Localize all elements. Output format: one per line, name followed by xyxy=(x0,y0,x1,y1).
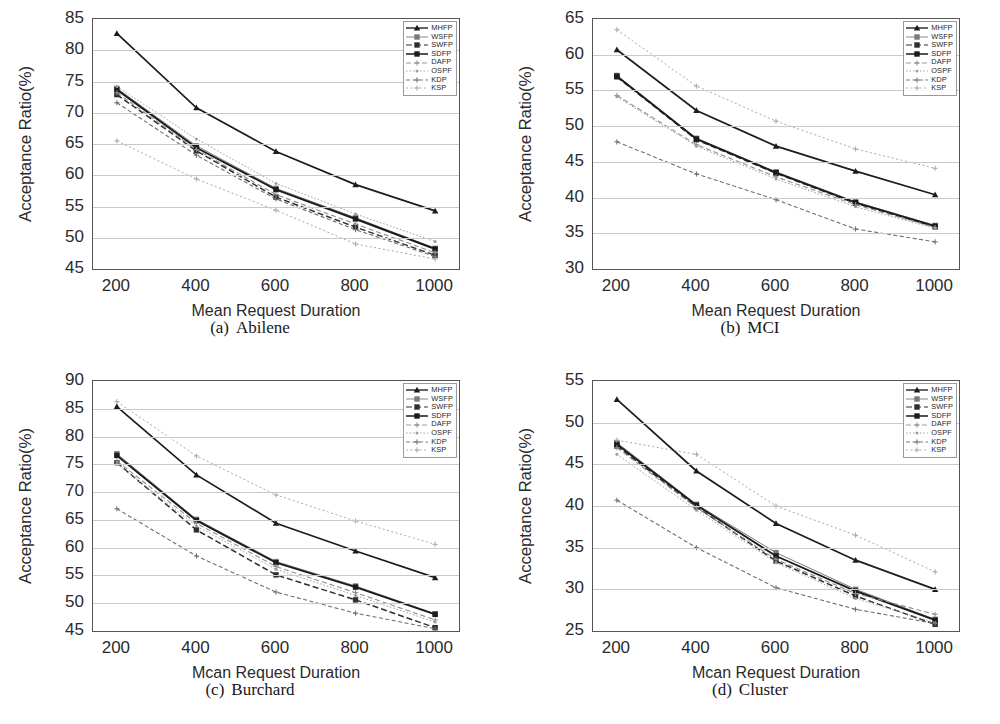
legend-item-ksp[interactable]: KSP xyxy=(406,446,453,455)
data-point-mhfp xyxy=(614,47,620,53)
y-tick-label: 25 xyxy=(565,620,584,640)
y-tick-label: 40 xyxy=(565,187,584,207)
grid-line xyxy=(593,198,959,199)
plot-frame-c: MHFPWSFPSWFPSDFPDAFPOSPFKDPKSP xyxy=(92,380,460,632)
x-tick-label: 1000 xyxy=(915,638,953,658)
data-point-ksp xyxy=(614,27,619,32)
grid-line xyxy=(593,548,959,549)
y-tick-label: 70 xyxy=(65,481,84,501)
legend-d[interactable]: MHFPWSFPSWFPSDFPDAFPOSPFKDPKSP xyxy=(903,383,957,458)
data-point-ksp xyxy=(433,542,438,547)
data-point-sdfp xyxy=(353,216,358,221)
y-tick-label: 85 xyxy=(65,8,84,28)
legend-swatch-ksp-icon xyxy=(906,84,928,92)
y-tick-label: 75 xyxy=(65,453,84,473)
y-tick-label: 30 xyxy=(565,578,584,598)
data-point-ospf xyxy=(275,182,278,185)
y-tick-label: 90 xyxy=(65,370,84,390)
plot-area-b: Acceptance Ratio(%) 3035404550556065 MHF… xyxy=(592,18,960,270)
grid-line xyxy=(593,506,959,507)
data-point-ksp xyxy=(773,119,778,124)
data-point-sdfp xyxy=(694,136,699,141)
y-tick-label: 80 xyxy=(65,426,84,446)
figure-grid: Acceptance Ratio(%) 455055606570758085 M… xyxy=(0,0,1000,724)
panel-d: Acceptance Ratio(%) 25303540455055 MHFPW… xyxy=(500,362,1000,724)
legend-swatch-dafp-icon xyxy=(406,421,428,429)
legend-label: KSP xyxy=(431,84,446,93)
legend-swatch-mhfp-icon xyxy=(406,24,428,32)
y-tick-label: 50 xyxy=(565,412,584,432)
x-tick-label: 600 xyxy=(261,638,289,658)
panel-caption-b: (b)MCI xyxy=(500,318,1000,338)
data-point-ksp xyxy=(114,399,119,404)
panel-name-d: Cluster xyxy=(739,680,788,699)
legend-item-ksp[interactable]: KSP xyxy=(406,84,453,93)
y-tick-label: 45 xyxy=(65,620,84,640)
y-tick-label: 45 xyxy=(565,151,584,171)
legend-swatch-wsfp-icon xyxy=(406,33,428,41)
plot-frame-b: MHFPWSFPSWFPSDFPDAFPOSPFKDPKSP xyxy=(592,18,960,270)
data-point-kdp xyxy=(853,226,858,231)
y-axis-label-a: Acceptance Ratio(%) xyxy=(16,34,36,254)
series-line-wsfp xyxy=(617,443,935,620)
data-point-ospf xyxy=(615,453,618,456)
legend-swatch-sdfp-icon xyxy=(406,50,428,58)
x-tick-label: 600 xyxy=(761,638,789,658)
y-tick-labels-a: 455055606570758085 xyxy=(38,18,84,270)
legend-label: KSP xyxy=(431,446,446,455)
grid-line xyxy=(93,520,459,521)
data-point-ospf xyxy=(354,213,357,216)
legend-c[interactable]: MHFPWSFPSWFPSDFPDAFPOSPFKDPKSP xyxy=(403,383,457,458)
legend-swatch-kdp-icon xyxy=(906,438,928,446)
data-point-ospf xyxy=(195,138,198,141)
y-axis-label-c: Acceptance Ratio(%) xyxy=(16,396,36,616)
data-point-ksp xyxy=(853,533,858,538)
legend-swatch-wsfp-icon xyxy=(406,395,428,403)
y-tick-label: 60 xyxy=(565,44,584,64)
y-tick-label: 50 xyxy=(65,227,84,247)
data-point-ospf xyxy=(695,509,698,512)
data-point-ospf xyxy=(854,205,857,208)
data-point-ospf xyxy=(854,597,857,600)
data-point-kdp xyxy=(694,171,699,176)
plot-area-d: Acceptance Ratio(%) 25303540455055 MHFPW… xyxy=(592,380,960,632)
grid-line xyxy=(93,238,459,239)
y-tick-labels-c: 45505560657075808590 xyxy=(38,380,84,632)
grid-line xyxy=(593,233,959,234)
y-tick-label: 75 xyxy=(65,71,84,91)
data-point-ospf xyxy=(615,95,618,98)
data-point-ksp xyxy=(273,208,278,213)
panel-name-a: Abilene xyxy=(236,318,290,337)
legend-a[interactable]: MHFPWSFPSWFPSDFPDAFPOSPFKDPKSP xyxy=(403,21,457,96)
panel-a: Acceptance Ratio(%) 455055606570758085 M… xyxy=(0,0,500,362)
grid-line xyxy=(593,589,959,590)
legend-swatch-mhfp-icon xyxy=(406,386,428,394)
data-point-sdfp xyxy=(353,584,358,589)
data-point-ksp xyxy=(933,569,938,574)
series-line-ospf xyxy=(117,87,435,242)
y-tick-label: 40 xyxy=(565,495,584,515)
legend-swatch-kdp-icon xyxy=(406,76,428,84)
data-point-mhfp xyxy=(114,30,120,36)
data-point-kdp xyxy=(933,239,938,244)
x-tick-label: 200 xyxy=(102,276,130,296)
legend-item-ksp[interactable]: KSP xyxy=(906,84,953,93)
y-tick-label: 30 xyxy=(565,258,584,278)
legend-item-ksp[interactable]: KSP xyxy=(906,446,953,455)
panel-c: Acceptance Ratio(%) 45505560657075808590… xyxy=(0,362,500,724)
grid-line xyxy=(93,492,459,493)
panel-name-b: MCI xyxy=(747,318,779,337)
plot-area-c: Acceptance Ratio(%) 45505560657075808590… xyxy=(92,380,460,632)
y-tick-label: 55 xyxy=(565,370,584,390)
data-point-mhfp xyxy=(614,396,620,402)
legend-b[interactable]: MHFPWSFPSWFPSDFPDAFPOSPFKDPKSP xyxy=(903,21,957,96)
y-axis-label-d: Acceptance Ratio(%) xyxy=(516,396,536,616)
x-tick-label: 800 xyxy=(340,276,368,296)
legend-swatch-ospf-icon xyxy=(406,67,428,75)
y-tick-label: 35 xyxy=(565,537,584,557)
y-tick-label: 55 xyxy=(65,564,84,584)
y-tick-label: 45 xyxy=(565,453,584,473)
panel-name-c: Burchard xyxy=(231,680,294,699)
data-point-sdfp xyxy=(432,612,437,617)
series-line-swfp xyxy=(617,446,935,624)
